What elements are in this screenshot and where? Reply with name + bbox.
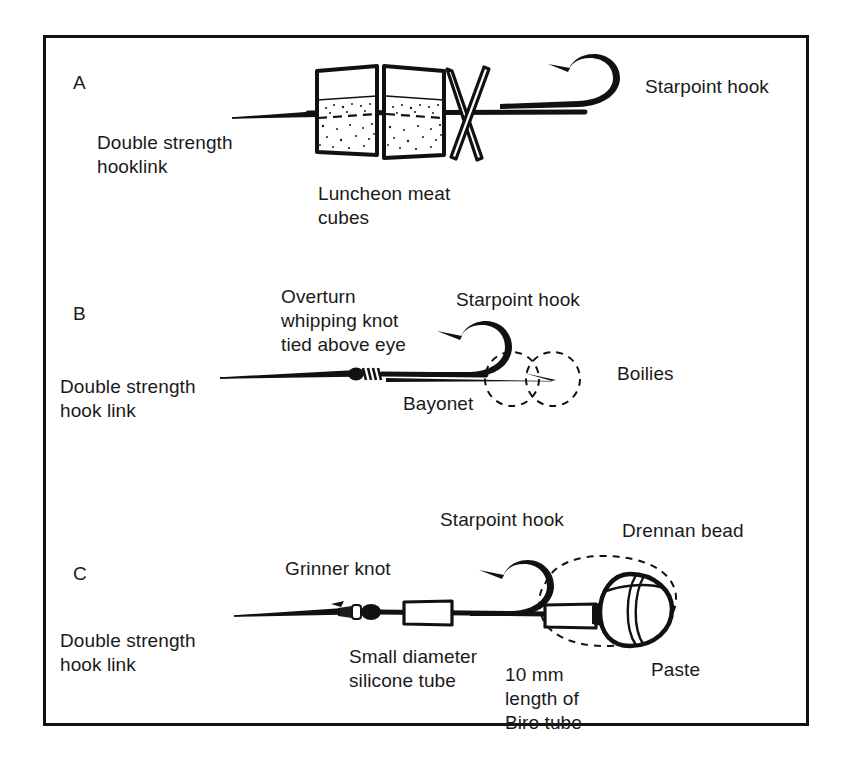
label-b-bayonet: Bayonet	[403, 392, 543, 416]
label-c-biro: 10 mm length of Biro tube	[505, 663, 645, 735]
label-b-bait: Boilies	[617, 362, 757, 386]
label-a-hooklink: Double strength hooklink	[97, 131, 317, 179]
panel-letter-a: A	[73, 72, 86, 94]
label-c-knot: Grinner knot	[285, 557, 485, 581]
label-a-bait: Luncheon meat cubes	[318, 182, 548, 230]
label-c-bead: Drennan bead	[622, 519, 842, 543]
label-b-hook: Starpoint hook	[456, 288, 656, 312]
figure-canvas: A Double strength hooklink Luncheon meat…	[0, 0, 845, 773]
panel-letter-b: B	[73, 303, 86, 325]
panel-letter-c: C	[73, 563, 87, 585]
label-c-hooklink: Double strength hook link	[60, 629, 280, 677]
label-a-hook: Starpoint hook	[645, 75, 845, 99]
label-c-paste: Paste	[651, 658, 771, 682]
label-b-hooklink: Double strength hook link	[60, 375, 280, 423]
label-c-hook: Starpoint hook	[440, 508, 640, 532]
